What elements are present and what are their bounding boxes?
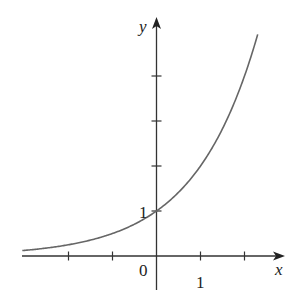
x-tick-label-1: 1 bbox=[196, 273, 205, 292]
exponential-graph: y x 0 1 1 bbox=[0, 0, 307, 301]
y-axis-label: y bbox=[137, 17, 147, 36]
y-tick-label-1: 1 bbox=[139, 203, 148, 222]
x-axis-label: x bbox=[274, 260, 283, 279]
origin-label: 0 bbox=[139, 261, 148, 280]
